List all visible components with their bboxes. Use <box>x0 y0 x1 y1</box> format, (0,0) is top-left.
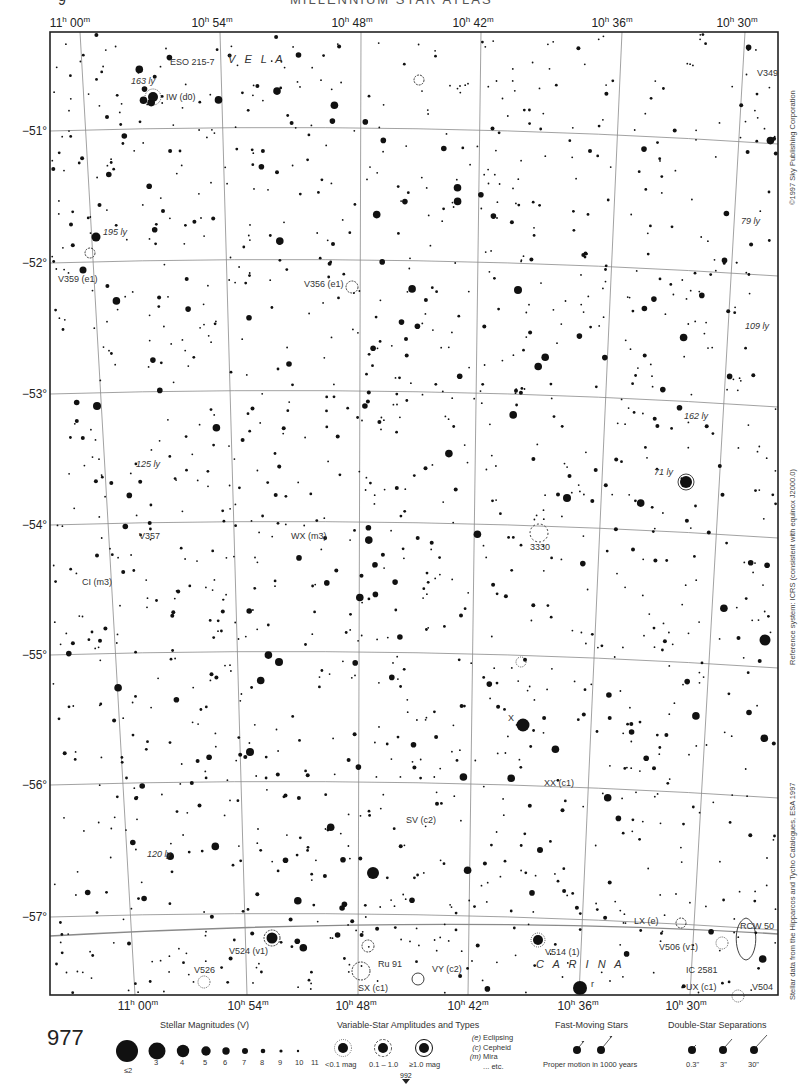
amplitude-label-small: <0.1 mag <box>325 1060 356 1069</box>
down-arrow-icon <box>402 1079 410 1084</box>
constellation-name: V E L A <box>228 53 286 65</box>
object-label: 163 ly <box>131 76 156 86</box>
magnitude-label: ≤2 <box>124 1066 132 1075</box>
magnitude-legend-title: Stellar Magnitudes (V) <box>160 1020 249 1030</box>
object-label: 3330 <box>530 542 550 552</box>
magnitude-label: 5 <box>203 1058 207 1067</box>
magnitude-label: 11 <box>311 1058 319 1067</box>
ra-label: 10h 36m <box>557 998 598 1013</box>
object-label: WX (m3) <box>291 531 327 541</box>
object-label: V524 (v1) <box>229 946 268 956</box>
object-label: XX (c1) <box>544 778 574 788</box>
object-label: V357 <box>139 531 160 541</box>
amplitude-label-medium: 0.1 – 1.0 <box>369 1060 398 1069</box>
dec-label: −55° <box>22 648 47 662</box>
variable-type: (c) Cepheid <box>465 1043 511 1052</box>
object-label: V356 (e1) <box>304 279 344 289</box>
constellation-name: C A R I N A <box>536 958 625 970</box>
copyright-text: ©1997 Sky Publishing Corporation <box>788 90 797 205</box>
object-label: UX (c1) <box>686 982 717 992</box>
object-label: 79 ly <box>741 216 761 226</box>
magnitude-label: 9 <box>278 1058 282 1067</box>
object-label: Ru 91 <box>378 959 402 969</box>
magnitude-label: 8 <box>260 1058 264 1067</box>
double-star-title: Double-Star Separations <box>668 1020 767 1030</box>
object-label: X <box>508 713 514 723</box>
variable-type: (m) Mira <box>465 1052 498 1061</box>
object-label: V506 (v1) <box>659 942 698 952</box>
ra-label: 10h 36m <box>591 15 632 30</box>
object-label: V504 <box>752 982 773 992</box>
legend: 977 Stellar Magnitudes (V) ≤234567891011… <box>0 1015 809 1089</box>
dec-label: −56° <box>22 778 47 792</box>
object-label: V526 <box>194 965 215 975</box>
page-number: 977 <box>47 1025 84 1051</box>
object-label: RCW 50 <box>740 921 774 931</box>
magnitude-scale <box>110 1031 310 1081</box>
reference-system-text: Reference system: ICRS (consistent with … <box>788 469 797 665</box>
object-label: IW (d0) <box>166 92 196 102</box>
magnitude-label: 10 <box>295 1058 303 1067</box>
variable-type: (e) Eclipsing <box>465 1033 513 1042</box>
ra-label: 10h 42m <box>452 15 493 30</box>
object-label: IC 2581 <box>686 965 718 975</box>
magnitude-label: 3 <box>154 1058 158 1067</box>
double-sep-0: 0.3" <box>686 1060 699 1069</box>
star-chart[interactable]: ESO 215-7163 lyIW (d0)V34979 ly195 lyV35… <box>0 0 809 1015</box>
variable-type: ... etc. <box>465 1062 504 1071</box>
double-star-icons <box>678 1033 788 1063</box>
ra-label: 10h 30m <box>665 998 706 1013</box>
ra-label: 11h 00m <box>50 15 90 30</box>
data-source-text: Stellar data from the Hipparcos and Tych… <box>788 783 797 1001</box>
constellation-boundary <box>50 924 778 936</box>
double-sep-1: 3" <box>720 1060 727 1069</box>
object-label: 162 ly <box>684 411 709 421</box>
next-page-marker[interactable]: 992 <box>400 1072 412 1084</box>
fast-moving-icons <box>565 1033 625 1063</box>
ra-label: 10h 48m <box>331 15 372 30</box>
object-label: SV (c2) <box>406 815 436 825</box>
dec-label: −53° <box>22 387 47 401</box>
object-label: V514 (1) <box>545 947 580 957</box>
object-label: SX (c1) <box>358 983 388 993</box>
ra-label: 10h 48m <box>335 998 376 1013</box>
dec-label: −51° <box>22 124 47 138</box>
dec-label: −52° <box>22 256 47 270</box>
object-label: r <box>591 979 594 989</box>
amplitude-label-large: ≥1.0 mag <box>409 1060 440 1069</box>
fast-moving-caption: Proper motion in 1000 years <box>543 1060 637 1069</box>
fast-moving-title: Fast-Moving Stars <box>555 1020 628 1030</box>
ra-label: 10h 42m <box>447 998 488 1013</box>
ra-label: 10h 30m <box>716 15 757 30</box>
object-label: VY (c2) <box>432 964 462 974</box>
magnitude-label: 7 <box>242 1058 246 1067</box>
double-sep-2: 30" <box>748 1060 759 1069</box>
object-label: 125 ly <box>136 459 161 469</box>
object-label: LX (e) <box>634 916 659 926</box>
object-label: 71 ly <box>654 467 674 477</box>
object-label: 120 ly <box>147 849 172 859</box>
magnitude-label: 4 <box>180 1058 184 1067</box>
object-label: CI (m3) <box>82 577 112 587</box>
ra-label: 10h 54m <box>227 998 268 1013</box>
variable-legend-title: Variable-Star Amplitudes and Types <box>337 1020 479 1030</box>
object-label: 109 ly <box>745 321 770 331</box>
next-page-number: 992 <box>400 1072 412 1079</box>
ra-label: 10h 54m <box>191 15 232 30</box>
magnitude-label: 6 <box>223 1058 227 1067</box>
marked-objects <box>85 75 756 1002</box>
object-label: V349 <box>757 68 778 78</box>
object-label: V359 (e1) <box>58 274 98 284</box>
dec-label: −54° <box>22 518 47 532</box>
object-label: ESO 215-7 <box>170 57 215 67</box>
dec-label: −57° <box>22 910 47 924</box>
object-label: 195 ly <box>103 227 128 237</box>
ra-label: 11h 00m <box>118 998 158 1013</box>
